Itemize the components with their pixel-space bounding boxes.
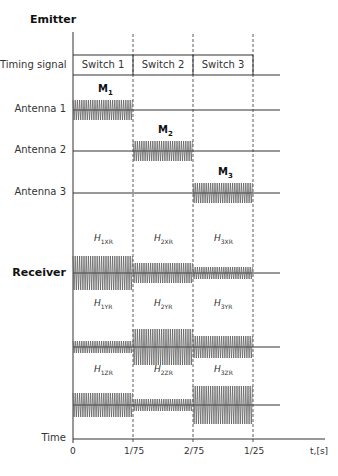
h3yr-label: H3YR [214, 298, 232, 310]
h2xr-label: H2XR [154, 233, 173, 245]
h1xr-label: H1XR [94, 233, 113, 245]
tick-1-75: 1/75 [124, 446, 144, 456]
m2-label: M2 [158, 124, 173, 138]
h3zr-label: H3ZR [214, 364, 233, 376]
h1zr-label: H1ZR [94, 364, 113, 376]
tick-2-75: 2/75 [184, 446, 204, 456]
h2zr-label: H2ZR [154, 364, 173, 376]
m3-label: M3 [218, 166, 233, 180]
time-unit-label: t,[s] [310, 446, 328, 456]
switch-1-label: Switch 1 [73, 59, 133, 70]
h2yr-label: H2YR [154, 298, 172, 310]
m1-label: M1 [98, 83, 113, 97]
switch-3-label: Switch 3 [193, 59, 253, 70]
tick-0: 0 [70, 446, 76, 456]
h3xr-label: H3XR [214, 233, 233, 245]
tick-1-25: 1/25 [244, 446, 264, 456]
h1yr-label: H1YR [94, 298, 112, 310]
switch-2-label: Switch 2 [133, 59, 193, 70]
